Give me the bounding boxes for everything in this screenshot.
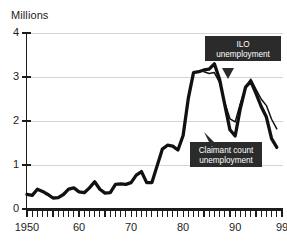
y-axis-tick-labels: 01234 xyxy=(13,26,19,214)
x-tick-label: 60 xyxy=(73,221,85,233)
annotation-claimant-line1: Claimant count xyxy=(199,146,254,155)
x-tick-label: 90 xyxy=(229,221,241,233)
annotation-ilo-line2: unemployment xyxy=(216,50,270,59)
x-tick-label: 70 xyxy=(125,221,137,233)
annotation-pointer-claimant-icon xyxy=(204,132,215,143)
annotation-ilo-line1: ILO xyxy=(236,40,249,49)
x-tick-label: 99 xyxy=(276,221,287,233)
chart-plot-area: 01234 19506070809099 ILO unemployment Cl… xyxy=(0,0,287,241)
y-tick-label: 3 xyxy=(13,70,19,82)
unemployment-line-chart: Millions 01234 19506070809099 ILO unempl… xyxy=(0,0,287,241)
x-axis-tick-labels: 19506070809099 xyxy=(15,221,287,233)
y-tick-label: 4 xyxy=(13,26,19,38)
y-tick-label: 2 xyxy=(13,114,19,126)
annotation-claimant-line2: unemployment xyxy=(199,156,253,165)
y-tick-label: 0 xyxy=(13,202,19,214)
annotation-claimant-count-unemployment: Claimant count unemployment xyxy=(190,132,262,167)
x-tick-label: 80 xyxy=(177,221,189,233)
series-line-claimant-count xyxy=(27,64,277,198)
y-tick-label: 1 xyxy=(13,158,19,170)
x-tick-label: 1950 xyxy=(15,221,39,233)
